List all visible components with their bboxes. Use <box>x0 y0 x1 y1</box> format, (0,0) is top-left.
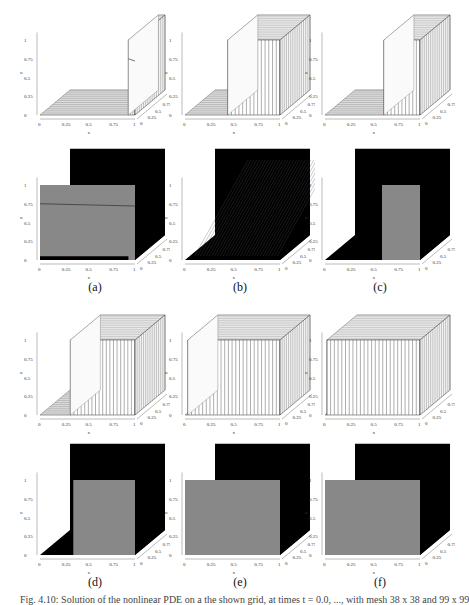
svg-text:0.25: 0.25 <box>148 555 157 560</box>
svg-text:0.5: 0.5 <box>371 562 378 567</box>
svg-text:0.5: 0.5 <box>86 422 93 427</box>
svg-text:0.75: 0.75 <box>254 267 263 272</box>
svg-text:0.5: 0.5 <box>169 376 176 381</box>
svg-text:1: 1 <box>278 122 281 127</box>
svg-text:0.5: 0.5 <box>86 562 93 567</box>
svg-text:0.5: 0.5 <box>440 409 447 414</box>
svg-text:1: 1 <box>309 183 312 188</box>
svg-text:0.5: 0.5 <box>440 254 447 259</box>
svg-text:0: 0 <box>183 562 186 567</box>
svg-text:0.5: 0.5 <box>309 376 316 381</box>
svg-text:0.25: 0.25 <box>433 260 442 265</box>
svg-text:0: 0 <box>169 413 172 418</box>
svg-text:0.75: 0.75 <box>169 497 178 502</box>
svg-text:0.5: 0.5 <box>309 516 316 521</box>
svg-text:0.25: 0.25 <box>169 394 178 399</box>
panel-label: (b) <box>165 280 315 295</box>
svg-text:1: 1 <box>24 38 27 43</box>
svg-text:x: x <box>373 130 376 135</box>
svg-text:0.25: 0.25 <box>207 562 216 567</box>
panel-c-wireframe: 00.250.50.75100.250.50.75100.250.50.751x… <box>305 0 455 140</box>
svg-text:0.75: 0.75 <box>254 122 263 127</box>
surface-plot: 00.250.50.75100.250.50.75100.250.50.751x… <box>165 300 315 440</box>
svg-text:1: 1 <box>169 338 172 343</box>
panel-c-shaded: 00.250.50.75100.250.50.75100.250.50.751x… <box>305 145 455 285</box>
svg-text:0.75: 0.75 <box>394 562 403 567</box>
figure-caption: Fig. 4.10: Solution of the nonlinear PDE… <box>20 594 469 605</box>
svg-text:x: x <box>88 430 91 435</box>
svg-text:0: 0 <box>425 421 428 426</box>
svg-text:x: x <box>88 130 91 135</box>
svg-text:0: 0 <box>309 113 312 118</box>
svg-text:0.5: 0.5 <box>231 122 238 127</box>
svg-text:1: 1 <box>133 122 136 127</box>
svg-text:0.75: 0.75 <box>309 357 318 362</box>
svg-text:1: 1 <box>418 267 421 272</box>
svg-text:0.25: 0.25 <box>347 267 356 272</box>
surface-plot: 00.250.50.75100.250.50.75100.250.50.751x… <box>165 145 315 285</box>
surface-plot: 00.250.50.75100.250.50.75100.250.50.751x… <box>20 0 170 140</box>
svg-text:0.25: 0.25 <box>24 94 33 99</box>
svg-text:0.25: 0.25 <box>62 122 71 127</box>
svg-text:1: 1 <box>309 338 312 343</box>
svg-text:0.25: 0.25 <box>293 555 302 560</box>
svg-text:0.75: 0.75 <box>394 267 403 272</box>
surface-plot: 00.250.50.75100.250.50.75100.250.50.751x… <box>165 0 315 140</box>
svg-text:0.25: 0.25 <box>433 415 442 420</box>
svg-text:0: 0 <box>24 258 27 263</box>
svg-text:0: 0 <box>24 553 27 558</box>
surface-plot: 00.250.50.75100.250.50.75100.250.50.751x… <box>305 300 455 440</box>
svg-text:0.25: 0.25 <box>62 422 71 427</box>
svg-text:0.75: 0.75 <box>254 562 263 567</box>
svg-text:0.5: 0.5 <box>309 76 316 81</box>
svg-text:0: 0 <box>38 267 41 272</box>
svg-text:0.25: 0.25 <box>207 422 216 427</box>
svg-text:0.25: 0.25 <box>62 267 71 272</box>
svg-text:0.75: 0.75 <box>254 422 263 427</box>
svg-text:0.5: 0.5 <box>155 549 162 554</box>
svg-text:0: 0 <box>38 422 41 427</box>
svg-text:0.5: 0.5 <box>231 422 238 427</box>
svg-text:u: u <box>20 510 23 515</box>
svg-text:0: 0 <box>285 121 288 126</box>
svg-text:0.75: 0.75 <box>109 267 118 272</box>
svg-text:0.75: 0.75 <box>309 497 318 502</box>
svg-text:0.25: 0.25 <box>433 555 442 560</box>
svg-text:0.5: 0.5 <box>231 562 238 567</box>
panel-f-wireframe: 00.250.50.75100.250.50.75100.250.50.751x… <box>305 300 455 440</box>
svg-text:0.75: 0.75 <box>24 57 33 62</box>
svg-text:u: u <box>20 215 23 220</box>
svg-text:0.5: 0.5 <box>24 376 31 381</box>
svg-text:0.5: 0.5 <box>169 76 176 81</box>
svg-text:0: 0 <box>285 561 288 566</box>
svg-text:0.25: 0.25 <box>24 239 33 244</box>
svg-text:u: u <box>20 370 23 375</box>
svg-text:u: u <box>165 370 168 375</box>
svg-text:0.75: 0.75 <box>109 562 118 567</box>
svg-text:0: 0 <box>38 122 41 127</box>
svg-text:1: 1 <box>278 267 281 272</box>
svg-text:0.25: 0.25 <box>62 562 71 567</box>
svg-text:0.25: 0.25 <box>148 260 157 265</box>
panel-label: (a) <box>20 280 170 295</box>
svg-text:0: 0 <box>169 113 172 118</box>
panel-e-wireframe: 00.250.50.75100.250.50.75100.250.50.751x… <box>165 300 315 440</box>
svg-text:0: 0 <box>309 413 312 418</box>
svg-text:0.5: 0.5 <box>86 122 93 127</box>
svg-text:0: 0 <box>285 266 288 271</box>
svg-text:0: 0 <box>140 266 143 271</box>
svg-text:u: u <box>20 70 23 75</box>
panel-a-shaded: 00.250.50.75100.250.50.75100.250.50.751x… <box>20 145 170 285</box>
svg-text:1: 1 <box>418 122 421 127</box>
svg-text:0.5: 0.5 <box>155 254 162 259</box>
svg-text:1: 1 <box>24 183 27 188</box>
svg-text:0.25: 0.25 <box>347 422 356 427</box>
svg-text:0.75: 0.75 <box>448 102 456 107</box>
svg-text:0: 0 <box>425 121 428 126</box>
svg-text:0.25: 0.25 <box>169 94 178 99</box>
svg-text:0.5: 0.5 <box>86 267 93 272</box>
svg-text:1: 1 <box>133 422 136 427</box>
svg-text:0: 0 <box>425 266 428 271</box>
panel-e-shaded: 00.250.50.75100.250.50.75100.250.50.751x… <box>165 440 315 580</box>
svg-text:0.75: 0.75 <box>24 202 33 207</box>
